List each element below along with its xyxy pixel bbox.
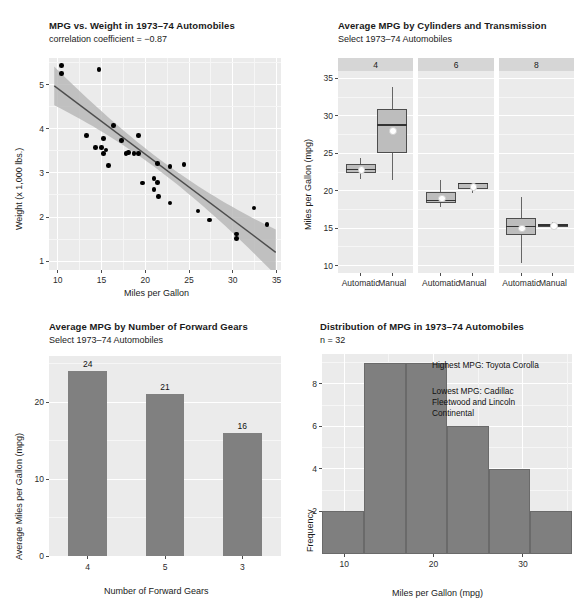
scatter-xtick — [145, 270, 146, 273]
scatter-subtitle: correlation coefficient = −0.87 — [49, 34, 167, 44]
boxplot-median-line — [377, 124, 407, 125]
boxplot-gridline-y-minor — [418, 97, 493, 98]
bar-rect — [223, 433, 262, 556]
hist-ytick — [319, 426, 322, 427]
bar-xtick-label: 5 — [153, 562, 177, 572]
scatter-point — [84, 133, 89, 138]
boxplot-ytick-label: 15 — [318, 223, 333, 233]
scatter-point — [99, 145, 104, 150]
scatter-xtick — [57, 270, 58, 273]
boxplot-xtick — [440, 273, 441, 276]
boxplot-gridline-y — [418, 265, 493, 266]
hist-ytick-label: 6 — [306, 421, 317, 431]
scatter-title: MPG vs. Weight in 1973–74 Automobiles — [49, 20, 235, 31]
bar-rect — [68, 371, 107, 556]
boxplot-gridline-y — [418, 153, 493, 154]
boxplot-gridline-y-minor — [418, 134, 493, 135]
boxplot-facet-label: 8 — [499, 60, 574, 70]
boxplot-gridline-y-minor — [338, 246, 413, 247]
boxplot-ytick-label: 10 — [318, 261, 333, 271]
dashboard-grid: MPG vs. Weight in 1973–74 Automobiles co… — [0, 0, 585, 605]
scatter-xtick — [101, 270, 102, 273]
scatter-xtick — [232, 270, 233, 273]
scatter-point — [155, 180, 160, 185]
hist-annotation-highest: Highest MPG: Toyota Corolla — [432, 360, 539, 371]
bar-ytick — [46, 402, 49, 403]
scatter-point — [156, 194, 161, 199]
hist-xtick-label: 10 — [335, 559, 353, 569]
bar-ytick-label: 10 — [31, 474, 44, 484]
boxplot-xtick — [392, 273, 393, 276]
boxplot-facet-label: 6 — [418, 60, 493, 70]
boxplot-xtick-label: Manual — [368, 278, 416, 288]
scatter-regression-band — [49, 58, 281, 270]
scatter-xtick — [276, 270, 277, 273]
scatter-point — [234, 236, 239, 241]
hist-bar — [489, 469, 530, 554]
hist-ytick-label: 4 — [306, 464, 317, 474]
hist-x-axis-title: Miles per Gallon (mpg) — [392, 588, 483, 598]
boxplot-y-axis-title: Miles per Gallon (mpg) — [303, 139, 313, 230]
boxplot-mean-point — [358, 166, 366, 174]
scatter-ytick-label: 5 — [31, 80, 44, 90]
boxplot-gridline-y — [338, 153, 413, 154]
bar-subtitle: Select 1973–74 Automobiles — [49, 335, 163, 345]
boxplot-title: Average MPG by Cylinders and Transmissio… — [338, 20, 547, 31]
scatter-point — [59, 71, 64, 76]
boxplot-gridline-y — [499, 78, 574, 79]
hist-xtick — [433, 554, 434, 557]
scatter-ytick-label: 3 — [31, 168, 44, 178]
scatter-point — [182, 162, 187, 167]
scatter-xtick-label: 30 — [226, 275, 240, 285]
boxplot-gridline-y-minor — [418, 209, 493, 210]
bar-xtick-label: 3 — [230, 562, 254, 572]
bar-x-axis-title: Number of Forward Gears — [104, 586, 209, 596]
bar-value-label: 21 — [149, 382, 181, 392]
hist-ytick — [319, 468, 322, 469]
boxplot-gridline-y — [418, 228, 493, 229]
scatter-xtick-label: 35 — [270, 275, 284, 285]
hist-ytick-label: 8 — [306, 379, 317, 389]
boxplot-xtick — [552, 273, 553, 276]
scatter-point — [119, 138, 124, 143]
boxplot-gridline-y — [338, 190, 413, 191]
boxplot-ytick-label: 25 — [318, 148, 333, 158]
bar-xtick — [242, 556, 243, 559]
scatter-point — [136, 151, 141, 156]
boxplot-mean-point — [389, 127, 397, 135]
boxplot-gridline-y-minor — [338, 209, 413, 210]
boxplot-gridline-y-minor — [499, 172, 574, 173]
boxplot-ytick-label: 30 — [318, 111, 333, 121]
scatter-xtick-label: 15 — [95, 275, 109, 285]
scatter-ytick-label: 4 — [31, 124, 44, 134]
bar-ytick-label: 0 — [31, 551, 44, 561]
scatter-point — [97, 67, 102, 72]
boxplot-gridline-y — [499, 265, 574, 266]
scatter-point — [101, 136, 106, 141]
scatter-point — [111, 123, 116, 128]
boxplot-xtick-label: Manual — [529, 278, 577, 288]
bar-y-axis-title: Average Miles per Gallon (mpg) — [14, 433, 24, 560]
boxplot-gridline-y-minor — [499, 209, 574, 210]
hist-xtick-label: 30 — [514, 559, 532, 569]
boxplot-gridline-y-minor — [418, 172, 493, 173]
bar-title: Average MPG by Number of Forward Gears — [49, 321, 248, 332]
hist-gridline-y — [322, 383, 572, 384]
boxplot-gridline-y — [338, 265, 413, 266]
scatter-ytick-label: 2 — [31, 212, 44, 222]
scatter-point — [124, 151, 129, 156]
boxplot-gridline-y — [418, 78, 493, 79]
boxplot-gridline-y-minor — [418, 246, 493, 247]
bar-value-label: 16 — [226, 421, 258, 431]
scatter-x-axis-title: Miles per Gallon — [124, 288, 189, 298]
hist-bar — [322, 511, 364, 554]
scatter-point — [155, 161, 160, 166]
boxplot-gridline-y-minor — [499, 246, 574, 247]
bar-value-label: 24 — [72, 359, 104, 369]
scatter-ytick-label: 1 — [31, 256, 44, 266]
hist-subtitle: n = 32 — [320, 335, 345, 345]
scatter-point — [265, 222, 270, 227]
panel-scatter: MPG vs. Weight in 1973–74 Automobiles co… — [0, 0, 292, 302]
boxplot-facet-label: 4 — [338, 60, 413, 70]
bar-rect — [146, 394, 185, 556]
